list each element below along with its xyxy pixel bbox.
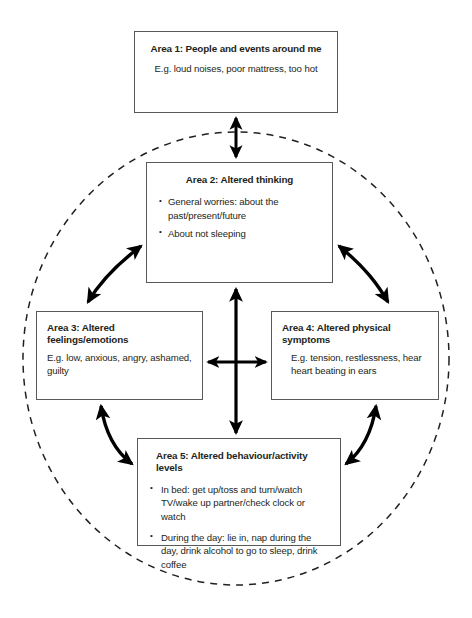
area-4-title: Area 4: Altered physical symptoms bbox=[282, 322, 428, 347]
list-item: General worries: about the past/present/… bbox=[159, 195, 320, 222]
area-2-bullet-list: General worries: about the past/present/… bbox=[159, 195, 320, 240]
arrow-area2-area3 bbox=[88, 246, 141, 302]
arrow-area4-area5 bbox=[346, 406, 376, 464]
area-2-title: Area 2: Altered thinking bbox=[159, 174, 320, 186]
area-1-title: Area 1: People and events around me bbox=[145, 43, 327, 55]
list-item: In bed: get up/toss and turn/watch TV/wa… bbox=[150, 483, 328, 524]
area-3-body: E.g. low, anxious, angry, ashamed, guilt… bbox=[47, 351, 192, 378]
area-4-body: E.g. tension, restlessness, hear heart b… bbox=[282, 351, 428, 378]
five-areas-diagram: Area 1: People and events around me E.g.… bbox=[0, 0, 472, 618]
area-5-title: Area 5: Altered behaviour/activity level… bbox=[150, 450, 328, 475]
list-item: About not sleeping bbox=[159, 227, 320, 241]
list-item: During the day: lie in, nap during the d… bbox=[150, 531, 328, 572]
area-3-title: Area 3: Altered feelings/emotions bbox=[47, 322, 192, 347]
arrow-area2-area4 bbox=[339, 246, 388, 302]
area-4-box[interactable]: Area 4: Altered physical symptoms E.g. t… bbox=[271, 311, 439, 400]
arrow-area3-area5 bbox=[101, 406, 132, 464]
area-5-box[interactable]: Area 5: Altered behaviour/activity level… bbox=[137, 438, 341, 546]
area-3-box[interactable]: Area 3: Altered feelings/emotions E.g. l… bbox=[36, 311, 203, 400]
area-5-bullet-list: In bed: get up/toss and turn/watch TV/wa… bbox=[150, 483, 328, 572]
area-1-box[interactable]: Area 1: People and events around me E.g.… bbox=[134, 31, 338, 113]
area-2-box[interactable]: Area 2: Altered thinking General worries… bbox=[146, 162, 333, 283]
area-1-body: E.g. loud noises, poor mattress, too hot bbox=[145, 62, 327, 76]
